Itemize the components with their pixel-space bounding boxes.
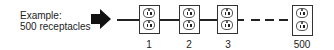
- duplex-receptacle-icon: [179, 5, 200, 34]
- wire-2-3: [200, 19, 217, 21]
- receptacle-label: 3: [213, 39, 243, 50]
- receptacle-label: 2: [174, 39, 204, 50]
- receptacle-label: 500: [287, 39, 317, 50]
- caption-line-2: 500 receptacles: [20, 21, 91, 32]
- wire-lead: [117, 19, 139, 21]
- outlet-icon: [143, 20, 155, 30]
- receptacle-label: 1: [134, 39, 164, 50]
- duplex-receptacle-icon: [139, 5, 160, 34]
- outlet-icon: [143, 8, 155, 18]
- outlet-icon: [221, 8, 233, 18]
- duplex-receptacle-icon: [217, 5, 238, 34]
- outlet-icon: [221, 20, 233, 30]
- duplex-receptacle-icon: [292, 5, 313, 36]
- right-arrow-icon: [90, 9, 112, 29]
- caption-line-1: Example:: [20, 10, 91, 21]
- outlet-icon: [183, 8, 195, 18]
- outlet-icon: [183, 20, 195, 30]
- dash-2: [265, 19, 274, 21]
- wire-1-2: [160, 19, 179, 21]
- outlet-icon: [296, 8, 308, 18]
- wire-3-out: [238, 19, 244, 21]
- caption: Example: 500 receptacles: [20, 10, 91, 32]
- outlet-icon: [296, 21, 308, 31]
- dash-1: [251, 19, 260, 21]
- dash-3: [279, 19, 288, 21]
